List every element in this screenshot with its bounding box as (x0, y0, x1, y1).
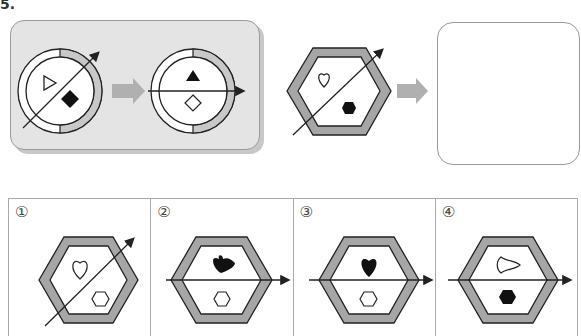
choices-row: ① ② ③ ④ (8, 198, 578, 336)
white-hexagon-icon (214, 292, 230, 306)
white-hexagon-icon (360, 292, 377, 306)
gray-arrow-icon (112, 78, 145, 104)
answer-box[interactable] (437, 22, 580, 165)
choice-3[interactable]: ③ (294, 199, 436, 336)
choice-4[interactable]: ④ (436, 199, 577, 336)
choice-2[interactable]: ② (151, 199, 293, 336)
black-hexagon-icon (342, 102, 356, 114)
example-before-ring (18, 49, 102, 133)
example-after-ring (148, 49, 243, 133)
problem-hexagon (287, 48, 391, 135)
choice-1[interactable]: ① (9, 199, 151, 336)
white-hexagon-icon (92, 292, 109, 306)
